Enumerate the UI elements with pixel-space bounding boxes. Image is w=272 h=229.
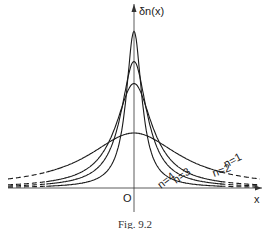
curve-n4-left-tail <box>8 186 47 187</box>
x-axis-label: x <box>254 193 260 205</box>
delta-sequence-figure: δn(x) x O n=1n=2n=3n=4 Fig. 9.2 <box>0 0 272 229</box>
label-n2: n=2 <box>211 161 233 179</box>
curve-n3-left-tail <box>8 184 47 186</box>
y-axis-label: δn(x) <box>139 5 164 17</box>
figure-caption: Fig. 9.2 <box>118 218 152 229</box>
y-axis-arrow-icon <box>132 4 137 12</box>
x-axis-arrow-icon <box>255 186 262 191</box>
curve-n2-right-tail <box>220 182 260 185</box>
curve-n1-left-tail <box>8 172 47 179</box>
origin-label: O <box>123 192 132 204</box>
